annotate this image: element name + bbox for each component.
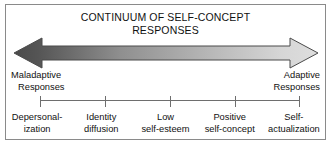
maladaptive-line-2: Responses <box>11 82 107 94</box>
stage-depersonalization-line-2: ization <box>5 124 69 136</box>
stage-self-actualization-line-1: Self- <box>262 112 326 124</box>
stage-identity-diffusion-line-2: diffusion <box>69 124 133 136</box>
stage-self-actualization: Self- actualization <box>262 112 326 138</box>
label-adaptive-responses: Adaptive Responses <box>224 70 320 93</box>
adaptive-line-1: Adaptive <box>224 70 320 82</box>
self-concept-continuum-figure: CONTINUUM OF SELF-CONCEPT RESPONSES Mala… <box>0 0 336 145</box>
stage-positive-self-concept-line-2: self-concept <box>198 124 262 136</box>
continuum-arrow <box>12 35 320 70</box>
stage-depersonalization: Depersonal- ization <box>5 112 69 138</box>
stage-identity-diffusion-line-1: Identity <box>69 112 133 124</box>
maladaptive-line-1: Maladaptive <box>11 70 107 82</box>
stage-positive-self-concept-line-1: Positive <box>198 112 262 124</box>
stage-identity-diffusion: Identity diffusion <box>69 112 133 138</box>
stage-low-self-esteem-line-1: Low <box>133 112 197 124</box>
arrow-shape <box>14 38 318 68</box>
adaptive-line-2: Responses <box>224 82 320 94</box>
stage-self-actualization-line-2: actualization <box>262 124 326 136</box>
stage-positive-self-concept: Positive self-concept <box>198 112 262 138</box>
figure-title-line-1: CONTINUUM OF SELF-CONCEPT <box>5 11 326 24</box>
stage-low-self-esteem: Low self-esteem <box>133 112 197 138</box>
stage-depersonalization-line-1: Depersonal- <box>5 112 69 124</box>
label-maladaptive-responses: Maladaptive Responses <box>11 70 107 93</box>
stage-low-self-esteem-line-2: self-esteem <box>133 124 197 136</box>
figure-title: CONTINUUM OF SELF-CONCEPT RESPONSES <box>5 11 326 36</box>
continuum-stage-labels: Depersonal- ization Identity diffusion L… <box>5 112 326 138</box>
